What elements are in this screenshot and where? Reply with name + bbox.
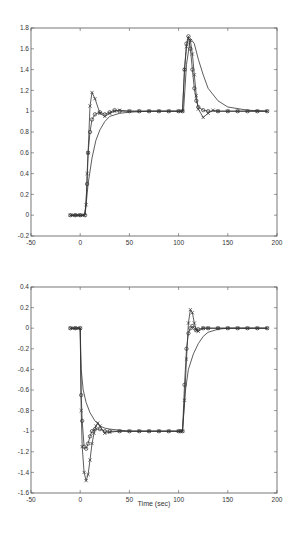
series-o-marker (70, 326, 267, 449)
x-tick-label: 100 (173, 239, 184, 246)
series-x-marker (70, 38, 267, 215)
series-solid-smooth (70, 38, 267, 215)
y-tick-label: -0.4 (18, 366, 30, 373)
y-tick-label: 0.6 (20, 149, 29, 156)
y-tick-label: 1.4 (20, 66, 29, 73)
x-tick-label: 100 (173, 496, 184, 503)
x-tick-label: 150 (222, 496, 233, 503)
y-tick-label: -0.6 (18, 386, 30, 393)
y-tick-label: 1.6 (20, 45, 29, 52)
y-tick-label: -0.2 (18, 232, 30, 239)
x-tick-label: 50 (126, 496, 134, 503)
plot-bottom-step-response: -50050100150200-1.6-1.4-1.2-1-0.8-0.6-0.… (18, 283, 283, 503)
x-tick-label: 150 (222, 239, 233, 246)
y-tick-label: 1.8 (20, 24, 29, 31)
y-tick-label: 1 (25, 107, 29, 114)
x-tick-label: -50 (26, 496, 36, 503)
y-tick-label: 0 (25, 211, 29, 218)
y-tick-label: 0.4 (20, 170, 29, 177)
x-tick-label: 200 (272, 496, 283, 503)
x-tick-label: 50 (126, 239, 134, 246)
x-tick-label: 0 (78, 239, 82, 246)
plot-frame (31, 28, 277, 236)
series-solid-smooth (70, 328, 267, 431)
figure: -50050100150200-0.200.20.40.60.811.21.41… (0, 0, 297, 534)
y-tick-label: 0.2 (20, 304, 29, 311)
y-tick-label: -1.2 (18, 448, 30, 455)
y-tick-label: 0 (25, 324, 29, 331)
y-tick-label: 0.4 (20, 283, 29, 290)
series-o-marker (70, 36, 267, 215)
x-tick-label: 200 (272, 239, 283, 246)
y-tick-label: 1.2 (20, 87, 29, 94)
y-tick-label: -1 (23, 427, 29, 434)
series-x-marker (70, 310, 267, 481)
y-tick-label: 0.8 (20, 128, 29, 135)
x-tick-label: 0 (78, 496, 82, 503)
plot-frame (31, 287, 277, 493)
y-tick-label: -1.4 (18, 469, 30, 476)
x-axis-label: Time (sec) (138, 500, 171, 508)
y-tick-label: -0.2 (18, 345, 30, 352)
y-tick-label: -0.8 (18, 407, 30, 414)
y-tick-label: -1.6 (18, 489, 30, 496)
x-tick-label: -50 (26, 239, 36, 246)
y-tick-label: 0.2 (20, 191, 29, 198)
plot-top-step-response: -50050100150200-0.200.20.40.60.811.21.41… (18, 24, 283, 246)
